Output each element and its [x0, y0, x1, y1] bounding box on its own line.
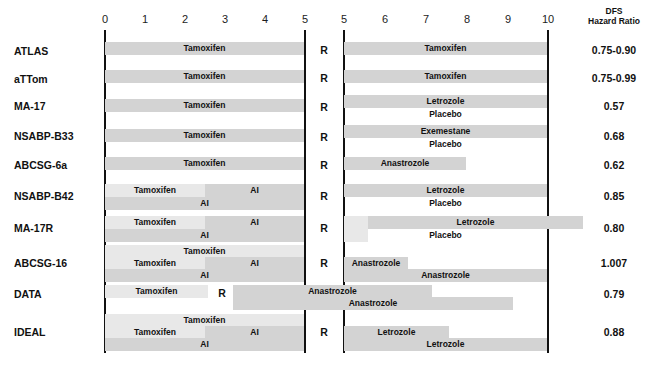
hazard-ratio-value: 0.85 — [578, 190, 650, 202]
hazard-ratio-header: DFS Hazard Ratio — [578, 6, 650, 26]
study-label-ideal: IDEAL — [14, 326, 46, 338]
table-row: MA-17R Tamoxifen AI AI R Letrozole Place… — [0, 214, 651, 246]
bar-pre-ai: AI — [205, 216, 304, 229]
bar-pre-ai-full: AI — [105, 197, 304, 210]
table-row: aTTom Tamoxifen R Tamoxifen 0.75-0.99 — [0, 66, 651, 94]
bar-post-letrozole-long: Letrozole — [344, 338, 547, 351]
trial-schema-figure: 0 1 2 3 4 5 5 6 7 8 9 10 DFS Hazard Rati… — [0, 0, 651, 365]
bar-pre-ai: AI — [205, 184, 304, 197]
study-label-ma17: MA-17 — [14, 100, 46, 112]
table-row: MA-17 Tamoxifen R Letrozole Placebo 0.57 — [0, 94, 651, 124]
randomization-marker: R — [317, 326, 331, 338]
study-label-nsabp-b42: NSABP-B42 — [14, 190, 74, 202]
bar-pre-ai-full: AI — [105, 338, 304, 351]
randomization-marker: R — [317, 159, 331, 171]
bar-post-placebo: Placebo — [344, 197, 547, 210]
bar-pre-ai-full: AI — [105, 229, 304, 242]
study-label-abcsg-6a: ABCSG-6a — [14, 159, 67, 171]
bar-post-anastrozole-long: Anastrozole — [344, 269, 547, 282]
axis-tick-right-7: 7 — [413, 13, 439, 25]
axis-tick-left-0: 0 — [92, 13, 118, 25]
bar-post-tamoxifen: Tamoxifen — [344, 70, 547, 83]
bar-pre-tamoxifen: Tamoxifen — [105, 216, 205, 229]
hazard-ratio-value: 0.57 — [578, 100, 650, 112]
bar-post-tamoxifen: Tamoxifen — [344, 42, 547, 55]
axis-tick-left-1: 1 — [132, 13, 158, 25]
hazard-ratio-value: 0.80 — [578, 222, 650, 234]
bar-pre-tamoxifen: Tamoxifen — [105, 129, 304, 142]
study-label-abcsg-16: ABCSG-16 — [14, 257, 67, 269]
axis-tick-left-4: 4 — [252, 13, 278, 25]
hazard-ratio-header-line1: DFS — [578, 6, 650, 16]
bar-pre-tamoxifen: Tamoxifen — [105, 157, 304, 170]
hazard-ratio-header-line2: Hazard Ratio — [578, 16, 650, 26]
axis-tick-right-10: 10 — [535, 13, 561, 25]
study-label-nsabp-b33: NSABP-B33 — [14, 130, 74, 142]
table-row: NSABP-B42 Tamoxifen AI AI R Letrozole Pl… — [0, 182, 651, 214]
table-row: DATA Tamoxifen R Anastrozole Anastrozole… — [0, 282, 651, 314]
bar-post-letrozole: Letrozole — [368, 216, 583, 229]
table-row: ABCSG-16 Tamoxifen Tamoxifen AI AI R Ana… — [0, 246, 651, 282]
randomization-marker: R — [317, 44, 331, 56]
hazard-ratio-value: 1.007 — [578, 257, 650, 269]
randomization-marker: R — [317, 72, 331, 84]
bar-post-letrozole: Letrozole — [344, 95, 547, 108]
study-label-data: DATA — [14, 288, 42, 300]
hazard-ratio-value: 0.75-0.99 — [578, 72, 650, 84]
bar-post-anastrozole-long: Anastrozole — [233, 297, 513, 310]
randomization-marker: R — [317, 101, 331, 113]
bar-pre-ai-full: AI — [105, 269, 304, 282]
randomization-marker: R — [317, 131, 331, 143]
table-row: NSABP-B33 Tamoxifen R Exemestane Placebo… — [0, 124, 651, 154]
table-row: ABCSG-6a Tamoxifen R Anastrozole 0.62 — [0, 154, 651, 182]
bar-pre-tamoxifen: Tamoxifen — [105, 99, 304, 112]
bar-pre-tamoxifen: Tamoxifen — [105, 184, 205, 197]
bar-post-placebo: Placebo — [344, 138, 547, 151]
axis-tick-left-2: 2 — [172, 13, 198, 25]
bar-post-exemestane: Exemestane — [344, 125, 547, 138]
bar-post-letrozole-stub — [344, 216, 368, 229]
bar-post-placebo-stub — [344, 229, 368, 242]
randomization-marker: R — [317, 222, 331, 234]
randomization-marker: R — [215, 287, 229, 299]
hazard-ratio-value: 0.75-0.90 — [578, 44, 650, 56]
table-row: IDEAL Tamoxifen Tamoxifen AI AI R Letroz… — [0, 314, 651, 350]
hazard-ratio-value: 0.79 — [578, 288, 650, 300]
bar-post-placebo: Placebo — [344, 108, 547, 121]
axis-tick-right-9: 9 — [495, 13, 521, 25]
study-label-atlas: ATLAS — [14, 45, 48, 57]
axis-tick-right-8: 8 — [454, 13, 480, 25]
study-label-ma17r: MA-17R — [14, 222, 53, 234]
bar-post-placebo: Placebo — [344, 229, 547, 242]
bar-pre-tamoxifen: Tamoxifen — [105, 42, 304, 55]
axis-tick-left-5: 5 — [292, 13, 318, 25]
axis-tick-right-6: 6 — [372, 13, 398, 25]
bar-pre-tamoxifen: Tamoxifen — [105, 285, 208, 298]
table-row: ATLAS Tamoxifen R Tamoxifen 0.75-0.90 — [0, 38, 651, 66]
axis-tick-left-3: 3 — [212, 13, 238, 25]
axis-tick-right-5: 5 — [331, 13, 357, 25]
hazard-ratio-value: 0.88 — [578, 326, 650, 338]
hazard-ratio-value: 0.62 — [578, 159, 650, 171]
hazard-ratio-value: 0.68 — [578, 130, 650, 142]
study-label-attom: aTTom — [14, 73, 48, 85]
bar-post-letrozole: Letrozole — [344, 184, 547, 197]
bar-pre-tamoxifen: Tamoxifen — [105, 70, 304, 83]
bar-post-anastrozole: Anastrozole — [344, 157, 466, 170]
randomization-marker: R — [317, 190, 331, 202]
randomization-marker: R — [317, 257, 331, 269]
